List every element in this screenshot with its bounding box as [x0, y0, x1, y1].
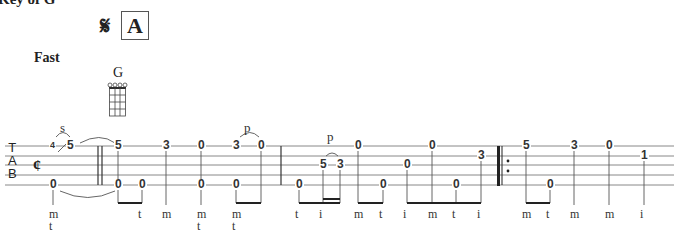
tab-note: 0 [546, 179, 555, 190]
tab-note: 3 [336, 159, 345, 170]
fingering-label: i [403, 207, 406, 222]
fingering-label: t [295, 207, 298, 222]
fingering-label: m [162, 207, 171, 222]
tab-note: 0 [605, 140, 614, 151]
fingering-label: i [640, 207, 643, 222]
tab-note: 0 [114, 179, 123, 190]
fingering-label: t [452, 207, 455, 222]
tab-note: 3 [570, 140, 579, 151]
tab-note: 3 [162, 140, 171, 151]
tab-note: 0 [354, 140, 363, 151]
technique-label: p [327, 129, 334, 145]
tab-note: 5 [522, 140, 531, 151]
fingering-label: t [546, 207, 549, 222]
fingering-label: t [197, 219, 200, 233]
chord-diagram-icon [108, 83, 127, 116]
tab-note: 0 [197, 179, 206, 190]
fingering-label: m [354, 207, 363, 222]
fingering-label: t [379, 207, 382, 222]
tab-note: 3 [232, 140, 241, 151]
tab-note: 0 [403, 159, 412, 170]
tab-note: 0 [49, 179, 58, 190]
tab-note: 0 [197, 140, 206, 151]
tab-note: 0 [295, 179, 304, 190]
fingering-label: t [49, 219, 52, 233]
fingering-label: m [570, 207, 579, 222]
tab-note: 0 [257, 140, 266, 151]
tab-note: 0 [428, 140, 437, 151]
fingering-label: i [319, 207, 322, 222]
tab-clef: T A B [8, 141, 17, 180]
fingering-label: t [138, 207, 141, 222]
tab-note: 0 [138, 179, 147, 190]
fingering-label: i [477, 207, 480, 222]
tab-note: 3 [477, 150, 486, 161]
time-signature: ¢ [33, 157, 41, 175]
tab-staff [0, 0, 674, 233]
tab-note: 0 [379, 179, 388, 190]
tab-note: 5 [114, 140, 123, 151]
tab-note: 1 [640, 150, 649, 161]
tab-note: 4 [49, 140, 56, 151]
fingering-label: m [605, 207, 614, 222]
technique-label: p [244, 120, 251, 136]
tab-note: 0 [452, 179, 461, 190]
tab-note: 5 [319, 159, 328, 170]
technique-label: s [60, 120, 65, 136]
tab-note: 0 [232, 179, 241, 190]
fingering-label: m [428, 207, 437, 222]
tab-note: 5 [66, 140, 75, 151]
fingering-label: m [522, 207, 531, 222]
fingering-label: t [232, 219, 235, 233]
